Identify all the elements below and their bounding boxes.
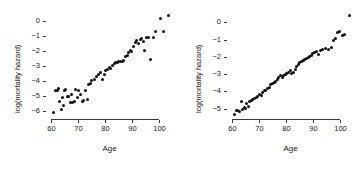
y-axis-label-right: log(mortality hazard) xyxy=(195,45,203,113)
data-point xyxy=(154,30,157,33)
data-point xyxy=(76,96,79,99)
data-point xyxy=(99,71,102,74)
data-point xyxy=(126,54,129,57)
y-tick-label-left: −3 xyxy=(24,62,40,70)
x-tick-left xyxy=(105,120,106,123)
y-tick-label-right: −4 xyxy=(205,87,221,95)
x-tick-label-right: 70 xyxy=(250,125,268,133)
y-tick-label-right: −1 xyxy=(205,36,221,44)
y-tick-label-left: −6 xyxy=(24,107,40,115)
y-tick-right xyxy=(224,91,227,92)
data-point xyxy=(294,68,297,71)
x-tick-label-right: 100 xyxy=(331,125,349,133)
data-point xyxy=(330,46,333,49)
data-point xyxy=(61,96,64,99)
data-point xyxy=(268,86,271,89)
y-tick-label-right: 0 xyxy=(205,18,221,26)
data-point xyxy=(334,37,337,40)
data-point xyxy=(57,87,60,90)
data-point xyxy=(77,89,80,92)
data-point xyxy=(58,100,61,103)
y-tick-left xyxy=(43,51,46,52)
data-point xyxy=(338,30,341,33)
y-tick-right xyxy=(224,74,227,75)
data-point xyxy=(82,99,85,102)
data-point xyxy=(348,14,351,17)
y-tick-left xyxy=(43,96,46,97)
data-point xyxy=(89,82,92,85)
x-tick-label-left: 90 xyxy=(123,125,141,133)
data-point xyxy=(62,104,65,107)
data-point xyxy=(260,94,263,97)
y-tick-label-left: −4 xyxy=(24,77,40,85)
data-point xyxy=(162,30,165,33)
data-point xyxy=(122,59,125,62)
x-tick-label-right: 60 xyxy=(223,125,241,133)
data-point xyxy=(132,45,135,48)
y-tick-right xyxy=(224,22,227,23)
data-point xyxy=(64,88,67,91)
data-point xyxy=(233,113,236,116)
x-tick-right xyxy=(286,120,287,123)
data-point xyxy=(60,108,63,111)
data-point xyxy=(152,36,155,39)
data-point xyxy=(147,36,150,39)
x-tick-label-right: 80 xyxy=(277,125,295,133)
x-tick-label-left: 100 xyxy=(150,125,168,133)
x-axis-label-left: Age xyxy=(46,145,173,153)
y-tick-left xyxy=(43,36,46,37)
figure-scatter-mortality-vs-age: 607080901000−1−2−3−4−5−6log(mortality ha… xyxy=(0,0,361,169)
x-tick-left xyxy=(51,120,52,123)
x-tick-left xyxy=(159,120,160,123)
y-tick-label-right: −5 xyxy=(205,105,221,113)
data-point xyxy=(159,17,162,20)
data-point xyxy=(70,93,73,96)
data-point xyxy=(93,78,96,81)
chart-panel-right: 607080901000−1−2−3−4−5log(mortality haza… xyxy=(181,0,361,169)
y-tick-label-left: 0 xyxy=(24,17,40,25)
y-tick-label-right: −3 xyxy=(205,70,221,78)
data-point xyxy=(142,40,145,43)
data-point xyxy=(149,58,152,61)
x-tick-label-left: 60 xyxy=(42,125,60,133)
data-point xyxy=(73,100,76,103)
data-point xyxy=(109,67,112,70)
x-tick-right xyxy=(313,120,314,123)
y-tick-left xyxy=(43,111,46,112)
data-point xyxy=(167,14,170,17)
data-point xyxy=(130,50,133,53)
y-tick-label-left: −1 xyxy=(24,32,40,40)
data-point xyxy=(86,98,89,101)
y-tick-left xyxy=(43,81,46,82)
y-tick-left xyxy=(43,21,46,22)
x-tick-right xyxy=(232,120,233,123)
data-point xyxy=(137,42,140,45)
y-axis-label-left: log(mortality hazard) xyxy=(14,45,22,113)
data-point xyxy=(343,33,346,36)
data-point xyxy=(247,105,250,108)
y-tick-label-right: −2 xyxy=(205,53,221,61)
y-tick-right xyxy=(224,109,227,110)
data-point xyxy=(238,110,241,113)
data-point xyxy=(143,49,146,52)
y-tick-right xyxy=(224,57,227,58)
data-point xyxy=(103,73,106,76)
x-tick-label-left: 70 xyxy=(69,125,87,133)
x-tick-right xyxy=(259,120,260,123)
x-tick-left xyxy=(78,120,79,123)
y-tick-left xyxy=(43,66,46,67)
x-tick-label-left: 80 xyxy=(96,125,114,133)
x-tick-right xyxy=(340,120,341,123)
data-point xyxy=(240,100,243,103)
data-point xyxy=(292,71,295,74)
data-point xyxy=(101,78,104,81)
data-point xyxy=(84,89,87,92)
y-tick-label-left: −5 xyxy=(24,92,40,100)
y-tick-label-left: −2 xyxy=(24,47,40,55)
x-tick-label-right: 90 xyxy=(304,125,322,133)
data-point xyxy=(317,53,320,56)
data-point xyxy=(79,93,82,96)
data-point xyxy=(52,111,55,114)
data-point xyxy=(244,107,247,110)
y-tick-right xyxy=(224,40,227,41)
